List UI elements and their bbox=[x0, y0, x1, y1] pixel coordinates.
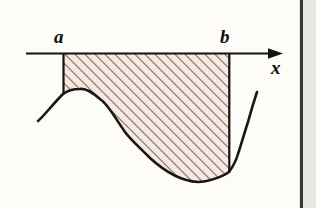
area-under-curve-diagram bbox=[0, 0, 316, 208]
label-b: b bbox=[220, 27, 230, 46]
shaded-region bbox=[63, 53, 229, 182]
region-outline-fill bbox=[63, 53, 229, 182]
page-gutter-rule bbox=[300, 0, 303, 208]
figure-canvas: a b x bbox=[0, 0, 316, 208]
label-x-axis: x bbox=[271, 58, 281, 77]
label-a: a bbox=[54, 27, 64, 46]
